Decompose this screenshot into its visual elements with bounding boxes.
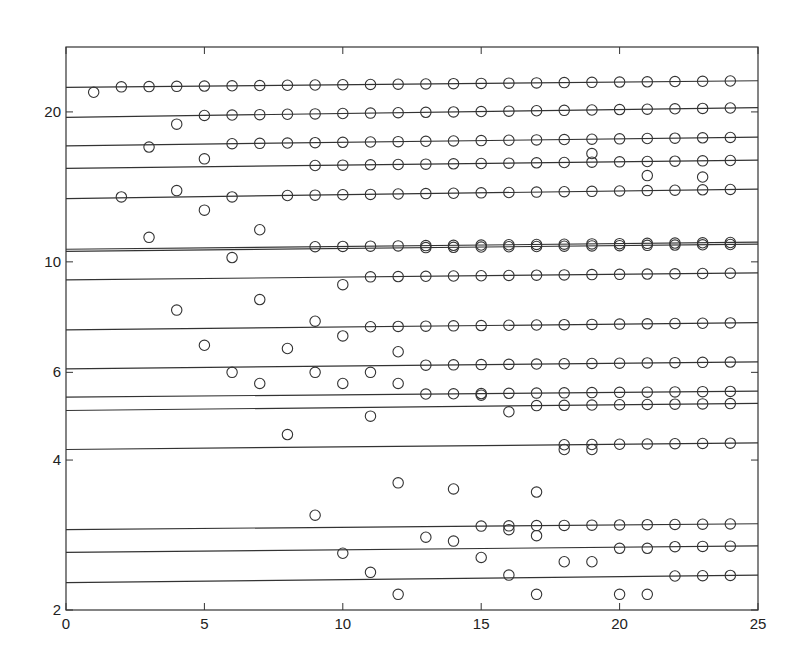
- fit-line: [66, 391, 758, 397]
- data-point: [531, 487, 541, 497]
- data-points: [88, 76, 735, 600]
- data-point: [255, 225, 265, 235]
- data-point: [393, 347, 403, 357]
- data-point: [365, 567, 375, 577]
- data-point: [393, 589, 403, 599]
- data-point: [642, 170, 652, 180]
- data-point: [365, 367, 375, 377]
- data-point: [199, 205, 209, 215]
- fit-line: [66, 137, 758, 146]
- fit-line: [66, 403, 758, 410]
- data-point: [88, 87, 98, 97]
- data-point: [365, 411, 375, 421]
- fit-line: [66, 575, 758, 582]
- fit-line: [66, 546, 758, 553]
- fit-line: [66, 189, 758, 198]
- data-point: [172, 119, 182, 129]
- fit-line: [66, 273, 758, 280]
- data-point: [614, 543, 624, 553]
- fit-line: [66, 160, 758, 168]
- axes: 05101520252461020: [44, 47, 766, 632]
- fit-line: [66, 524, 758, 530]
- data-point: [227, 192, 237, 202]
- scatter-chart: 05101520252461020: [0, 0, 803, 663]
- data-point: [448, 536, 458, 546]
- x-tick-label: 25: [750, 615, 767, 632]
- data-point: [199, 154, 209, 164]
- data-point: [393, 478, 403, 488]
- y-tick-label: 4: [53, 451, 61, 468]
- fit-line: [66, 443, 758, 450]
- data-point: [531, 530, 541, 540]
- fit-line: [66, 108, 758, 118]
- data-point: [448, 484, 458, 494]
- data-point: [338, 279, 348, 289]
- data-point: [642, 589, 652, 599]
- x-tick-label: 15: [473, 615, 490, 632]
- data-point: [587, 557, 597, 567]
- data-point: [310, 510, 320, 520]
- data-point: [697, 172, 707, 182]
- y-tick-label: 10: [44, 253, 61, 270]
- x-tick-label: 20: [611, 615, 628, 632]
- data-point: [282, 343, 292, 353]
- x-tick-label: 10: [334, 615, 351, 632]
- data-point: [255, 294, 265, 304]
- x-tick-label: 5: [200, 615, 208, 632]
- data-point: [310, 367, 320, 377]
- data-point: [172, 185, 182, 195]
- data-point: [172, 305, 182, 315]
- fit-line: [66, 362, 758, 369]
- data-point: [531, 589, 541, 599]
- data-point: [338, 331, 348, 341]
- y-tick-label: 6: [53, 363, 61, 380]
- data-point: [227, 367, 237, 377]
- data-point: [504, 407, 514, 417]
- y-tick-label: 20: [44, 103, 61, 120]
- y-tick-label: 2: [53, 601, 61, 618]
- data-point: [282, 429, 292, 439]
- data-point: [476, 552, 486, 562]
- data-point: [199, 340, 209, 350]
- data-point: [310, 316, 320, 326]
- data-point: [144, 142, 154, 152]
- data-point: [504, 570, 514, 580]
- data-point: [559, 557, 569, 567]
- fit-line: [66, 323, 758, 330]
- data-point: [421, 532, 431, 542]
- data-point: [255, 378, 265, 388]
- data-point: [227, 252, 237, 262]
- horizontal-lines: [66, 81, 758, 583]
- fit-line: [66, 81, 758, 88]
- data-point: [144, 232, 154, 242]
- data-point: [614, 589, 624, 599]
- data-point: [338, 378, 348, 388]
- data-point: [642, 543, 652, 553]
- x-tick-label: 0: [62, 615, 70, 632]
- data-point: [393, 378, 403, 388]
- data-point: [116, 192, 126, 202]
